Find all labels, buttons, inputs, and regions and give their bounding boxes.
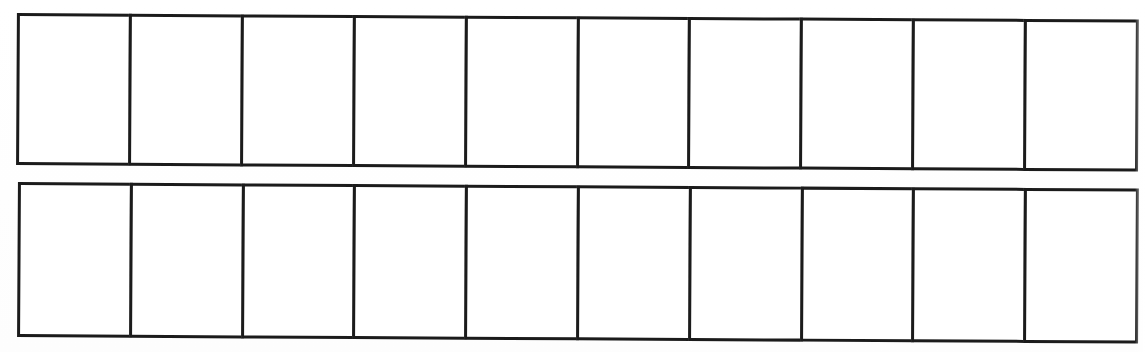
grid-cell[interactable]: [1023, 188, 1139, 344]
grid-cell[interactable]: [129, 183, 245, 339]
grid-cell[interactable]: [688, 186, 804, 342]
grid-cell[interactable]: [576, 16, 692, 169]
grid-cell[interactable]: [128, 14, 244, 167]
grid-cell[interactable]: [1023, 19, 1139, 172]
grid-cell[interactable]: [352, 15, 468, 168]
grid-cell[interactable]: [240, 14, 356, 167]
grid-cell[interactable]: [352, 184, 468, 340]
grid-cell[interactable]: [16, 13, 132, 166]
grid-cell[interactable]: [911, 18, 1027, 171]
grid-cell[interactable]: [464, 16, 580, 169]
grid-cell[interactable]: [17, 182, 133, 338]
grid-row-2: [17, 182, 1139, 343]
grid-cell[interactable]: [799, 18, 915, 171]
scanned-worksheet-page: [0, 0, 1145, 352]
grid-cell[interactable]: [464, 185, 580, 341]
grid-cell[interactable]: [800, 187, 916, 343]
grid-cell[interactable]: [911, 187, 1027, 343]
worksheet-grid: [0, 0, 1145, 352]
grid-cell[interactable]: [687, 17, 803, 170]
grid-cell[interactable]: [576, 185, 692, 341]
grid-cell[interactable]: [241, 183, 357, 339]
grid-row-1: [16, 13, 1139, 171]
